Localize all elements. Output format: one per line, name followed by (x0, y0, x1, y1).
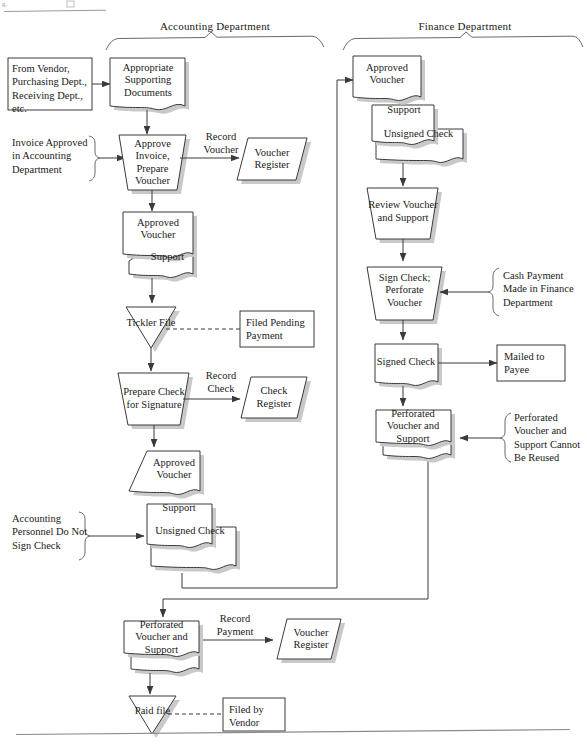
label-filed-by-vendor: Filed by Vendor (229, 703, 287, 730)
edge-label-record-check: Record Check (195, 370, 247, 395)
node-tickler-file (126, 307, 180, 352)
node-supporting-documents (110, 58, 189, 114)
dept-label-finance: Finance Department (380, 20, 550, 32)
note-perforated-reuse: Perforated Voucher and Support Cannot Be… (514, 411, 587, 465)
page-header-rule (4, 1, 106, 12)
node-review-voucher-support (367, 188, 442, 243)
node-approved-voucher-stack-2 (129, 451, 240, 574)
node-approved-voucher-stack-finance (353, 56, 467, 167)
finance-department-bracket (343, 32, 583, 50)
note-from-vendor: From Vendor, Purchasing Dept., Receiving… (12, 62, 94, 116)
edge-label-record-voucher: Record Voucher (192, 131, 250, 156)
node-approved-voucher-stack-1 (123, 212, 197, 282)
brace-cash-payment (488, 268, 499, 316)
note-cash-payment: Cash Payment Made in Finance Department (503, 269, 587, 309)
node-approve-invoice (119, 135, 190, 194)
label-filed-pending-payment: Filed Pending Payment (246, 316, 316, 343)
label-mailed-to-payee: Mailed to Payee (504, 350, 566, 377)
dept-label-accounting: Accounting Department (130, 20, 300, 32)
accounting-department-bracket (106, 32, 324, 50)
node-perforated-voucher-support-finance (376, 410, 455, 463)
node-check-register (241, 377, 311, 422)
node-perforated-voucher-support (124, 621, 203, 677)
node-prepare-check (118, 373, 193, 429)
page-header-fragment: g. (2, 0, 7, 8)
edge-label-record-payment: Record Payment (204, 613, 266, 638)
node-voucher-register-2 (277, 619, 345, 663)
brace-perforated-reuse (500, 413, 511, 462)
note-accounting-personnel: Accounting Personnel Do Not Sign Check (12, 512, 90, 552)
node-paid-file (129, 696, 180, 738)
flowchart-page: g. Accounting Department Finance Departm… (0, 0, 587, 744)
node-signed-check (375, 344, 442, 390)
node-sign-check-perforate (367, 267, 446, 324)
page-bottom-rule (16, 730, 570, 735)
note-invoice-approved: Invoice Approved in Accounting Departmen… (12, 136, 96, 176)
